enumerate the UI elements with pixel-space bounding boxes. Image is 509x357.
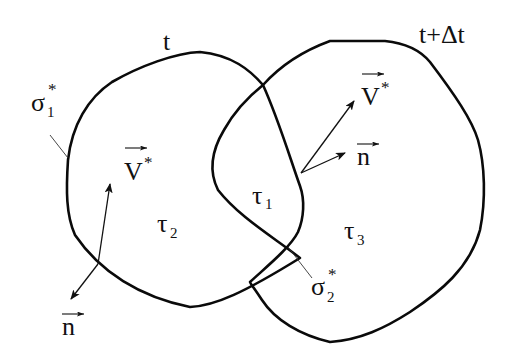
label-sigma2-star: σ 2 *: [311, 265, 337, 305]
label-v-left: V *: [124, 148, 153, 186]
svg-text:σ: σ: [31, 88, 45, 117]
svg-text:V: V: [124, 157, 143, 186]
svg-text:n: n: [357, 142, 370, 171]
label-sigma1-star: σ 1 *: [31, 80, 57, 120]
svg-text:*: *: [328, 265, 337, 284]
vector-v-left-arrow: [98, 184, 110, 264]
label-v-right: V *: [361, 74, 390, 111]
svg-text:τ: τ: [157, 209, 167, 238]
label-tau3: τ 3: [344, 216, 365, 248]
label-time-t-plus-dt: t+Δt: [419, 20, 466, 49]
svg-text:1: 1: [265, 196, 273, 212]
svg-text:σ: σ: [311, 272, 325, 301]
sigma1-leader-line: [50, 135, 68, 158]
svg-text:τ: τ: [344, 216, 354, 245]
svg-text:τ: τ: [252, 181, 262, 210]
label-n-left: n: [62, 312, 84, 341]
svg-text:2: 2: [327, 289, 335, 305]
svg-text:*: *: [144, 153, 153, 172]
svg-text:3: 3: [357, 232, 365, 248]
label-time-t: t: [163, 27, 171, 56]
svg-text:*: *: [48, 80, 57, 99]
svg-text:n: n: [62, 312, 75, 341]
label-tau1: τ 1: [252, 181, 273, 212]
svg-text:*: *: [381, 78, 390, 97]
svg-text:V: V: [361, 82, 380, 111]
svg-text:1: 1: [47, 104, 55, 120]
label-n-right: n: [357, 142, 379, 171]
vector-n-left-arrow: [71, 264, 98, 299]
volume-evolution-diagram: t t+Δt σ 1 * σ 2 * τ 1 τ 2 τ 3 V * n: [0, 0, 509, 357]
label-tau2: τ 2: [157, 209, 178, 241]
svg-text:2: 2: [170, 225, 178, 241]
vector-v-right-arrow: [301, 101, 354, 173]
